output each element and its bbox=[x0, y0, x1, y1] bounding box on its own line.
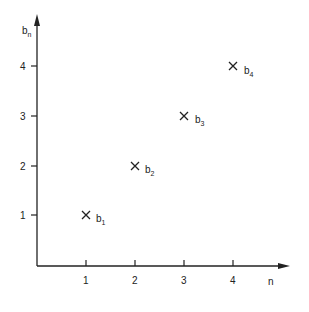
y-axis-arrow-icon bbox=[34, 14, 40, 26]
x-tick-label: 2 bbox=[132, 275, 138, 286]
x-marker-icon bbox=[229, 62, 237, 70]
data-point-b4: b4 bbox=[229, 62, 254, 78]
data-point-b2: b2 bbox=[131, 162, 155, 177]
svg-text:b2: b2 bbox=[145, 164, 155, 177]
svg-text:b1: b1 bbox=[96, 213, 106, 226]
x-tick-label: 1 bbox=[83, 275, 89, 286]
y-ticks bbox=[31, 66, 37, 215]
y-axis-label: bn bbox=[22, 25, 32, 38]
x-ticks bbox=[86, 260, 233, 266]
y-tick-label: 1 bbox=[20, 210, 26, 221]
y-tick-label: 4 bbox=[20, 61, 26, 72]
scatter-chart: 1 2 3 4 1 2 3 4 n bn b1 b2 b3 b4 bbox=[0, 0, 309, 312]
x-marker-icon bbox=[131, 162, 139, 170]
x-tick-label: 4 bbox=[230, 275, 236, 286]
x-tick-label: 3 bbox=[181, 275, 187, 286]
svg-text:b4: b4 bbox=[244, 65, 254, 78]
y-tick-label: 3 bbox=[20, 111, 26, 122]
x-axis-arrow-icon bbox=[278, 263, 290, 269]
x-marker-icon bbox=[180, 112, 188, 120]
data-point-b3: b3 bbox=[180, 112, 205, 127]
x-axis-label: n bbox=[268, 276, 274, 287]
x-marker-icon bbox=[82, 211, 90, 219]
svg-text:b3: b3 bbox=[195, 114, 205, 127]
y-tick-label: 2 bbox=[20, 161, 26, 172]
data-point-b1: b1 bbox=[82, 211, 106, 226]
